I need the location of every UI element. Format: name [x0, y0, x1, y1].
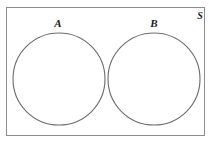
universal-set-rectangle: [7, 8, 205, 136]
set-b-label: B: [149, 17, 157, 29]
venn-diagram-canvas: A B S: [0, 0, 212, 143]
venn-diagram-figure: A B S: [0, 0, 212, 143]
universal-set-label: S: [197, 10, 203, 21]
set-a-label: A: [53, 17, 61, 29]
